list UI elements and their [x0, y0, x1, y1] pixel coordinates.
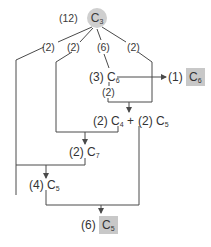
node-c5-mid: (2) C5 — [138, 114, 169, 132]
node-c6-output: (1) C6 — [168, 70, 205, 88]
plus-sign: + — [127, 114, 134, 128]
c6-branch-label: (2) — [102, 86, 115, 98]
node-c4: (2) C4 — [93, 114, 124, 132]
root-count: (12) — [59, 12, 78, 24]
edge-b1-down — [16, 47, 44, 195]
root-molecule-c3: C3 — [87, 8, 107, 28]
branch-label-3: (6) — [97, 41, 110, 53]
node-c5-output: (6) C5 — [81, 218, 118, 236]
node-c7: (2) C7 — [69, 145, 100, 163]
branch-label-4: (2) — [127, 41, 140, 53]
branch-label-2: (2) — [67, 41, 80, 53]
branch-label-1: (2) — [42, 41, 55, 53]
node-c5-low: (4) C5 — [29, 178, 60, 196]
